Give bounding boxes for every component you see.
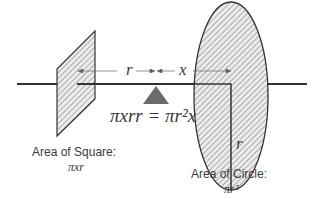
square-formula: πxr bbox=[68, 160, 84, 175]
label-x-top: x bbox=[179, 60, 187, 80]
circle-formula: πr² bbox=[224, 182, 238, 197]
equation: πxrr = πr²x bbox=[110, 105, 196, 127]
label-r-top: r bbox=[126, 60, 133, 80]
circle-title: Area of Circle: bbox=[191, 167, 267, 181]
fulcrum-triangle bbox=[143, 86, 169, 104]
label-r-circle: r bbox=[236, 134, 243, 154]
lever-diagram bbox=[0, 0, 320, 199]
square-title: Area of Square: bbox=[32, 145, 116, 159]
